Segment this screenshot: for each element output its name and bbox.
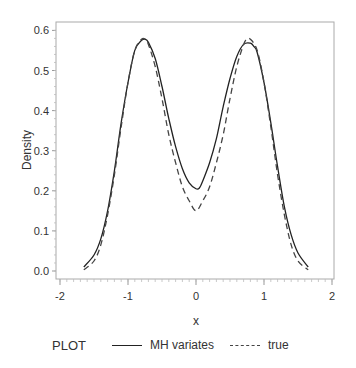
x-axis-label: x [193,314,199,328]
y-tick-label: 0.0 [34,265,49,277]
x-tick-label: 2 [329,290,335,302]
y-tick-label: 0.4 [34,105,49,117]
series-line-true [84,38,308,270]
y-tick-label: 0.1 [34,225,49,237]
x-tick-label: 0 [193,290,199,302]
series-group [84,38,308,270]
legend-label: true [268,338,289,352]
y-axis-label: Density [20,130,34,170]
y-tick-label: 0.2 [34,185,49,197]
legend: PLOT MH variates true [52,335,305,355]
legend-title: PLOT [52,338,86,353]
density-chart: 0.00.10.20.30.40.50.6 -2-1012 Density x [0,0,356,330]
y-tick-label: 0.3 [34,145,49,157]
x-tick-label: 1 [261,290,267,302]
legend-item-mh-variates: MH variates [112,338,214,352]
x-tick-label: -2 [55,290,65,302]
x-axis: -2-1012 [55,279,335,302]
y-tick-label: 0.5 [34,65,49,77]
y-tick-label: 0.6 [34,24,49,36]
x-tick-label: -1 [123,290,133,302]
legend-item-true: true [230,338,289,352]
legend-label: MH variates [150,338,214,352]
dashed-line-icon [230,345,260,346]
solid-line-icon [112,345,142,346]
y-axis: 0.00.10.20.30.40.50.6 [34,24,56,277]
